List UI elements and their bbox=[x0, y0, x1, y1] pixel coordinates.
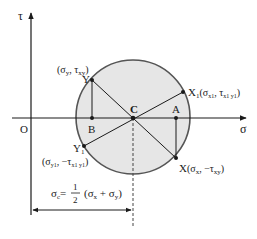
formula-denominator: 2 bbox=[73, 195, 78, 205]
svg-text:(σx + σy): (σx + σy) bbox=[84, 187, 122, 201]
mohr-circle-diagram: τ σ O C A B Y (σy, τxy) X(σx, −τxy) X1(σ… bbox=[0, 0, 257, 239]
label-c: C bbox=[130, 103, 138, 115]
point-x1 bbox=[181, 90, 185, 94]
label-b: B bbox=[88, 123, 95, 135]
label-x1-coords: X1(σx1, τx1 y1) bbox=[188, 86, 240, 100]
tau-axis-label: τ bbox=[18, 9, 23, 23]
sigma-c-formula: σc= 1 2 (σx + σy) bbox=[51, 182, 122, 205]
label-y-coords: (σy, τxy) bbox=[57, 64, 89, 77]
point-b bbox=[90, 116, 94, 120]
point-y bbox=[90, 78, 94, 82]
sigma-axis-label: σ bbox=[240, 122, 247, 136]
origin-label: O bbox=[20, 123, 28, 135]
label-y1-coords: (σy1, −τx1 y1) bbox=[42, 156, 88, 168]
point-x bbox=[174, 156, 178, 160]
svg-text:σc=: σc= bbox=[51, 187, 66, 201]
label-x-coords: X(σx, −τxy) bbox=[179, 162, 224, 176]
formula-numerator: 1 bbox=[73, 182, 78, 192]
point-c bbox=[131, 116, 136, 121]
point-a bbox=[174, 116, 178, 120]
label-a: A bbox=[172, 103, 180, 115]
